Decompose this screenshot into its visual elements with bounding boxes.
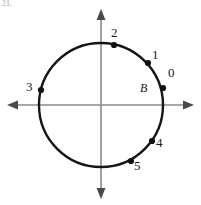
point-0-label: 0 (168, 66, 175, 79)
point-1-dot (145, 60, 151, 66)
center-point-label-b: B (140, 82, 147, 94)
point-3-dot (38, 87, 44, 93)
x-axis-left-arrow (7, 101, 18, 110)
circle-diagram-svg (0, 0, 201, 205)
axes-group (7, 9, 194, 199)
y-axis-bottom-arrow (97, 188, 106, 199)
point-2-label: 2 (111, 26, 118, 39)
point-0-dot (160, 85, 166, 91)
point-5-label: 5 (134, 159, 141, 172)
point-3-label: 3 (26, 80, 33, 93)
point-4-dot (149, 138, 155, 144)
figure-canvas: 21. 0 1 2 3 4 5 B (0, 0, 201, 205)
point-2-dot (111, 42, 117, 48)
point-4-label: 4 (156, 136, 163, 149)
x-axis-right-arrow (183, 101, 194, 110)
point-1-label: 1 (152, 48, 159, 61)
y-axis-top-arrow (97, 9, 106, 20)
